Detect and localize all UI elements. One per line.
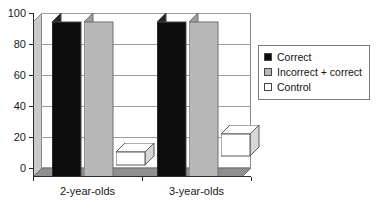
x-tick-mark-middle bbox=[142, 177, 143, 181]
x-tick-mark-start bbox=[33, 177, 34, 181]
bar-chart: 100 80 60 40 20 0 2-year-olds 3-year-old… bbox=[0, 0, 378, 213]
legend-swatch-control-icon bbox=[264, 83, 272, 91]
x-tick-mark-end bbox=[251, 177, 252, 181]
y-axis-line bbox=[33, 13, 34, 177]
y-tick-mark-100 bbox=[29, 13, 33, 14]
y-tick-label-20: 20 bbox=[0, 132, 26, 143]
legend-label-control: Control bbox=[277, 81, 311, 93]
x-tick-label-3-year-olds: 3-year-olds bbox=[142, 185, 251, 197]
legend-label-correct: Correct bbox=[277, 51, 311, 63]
y-tick-mark-20 bbox=[29, 137, 33, 138]
chart-legend: Correct Incorrect + correct Control bbox=[258, 45, 370, 100]
y-tick-mark-60 bbox=[29, 75, 33, 76]
bar-3yo-correct bbox=[157, 13, 186, 177]
y-tick-label-100: 100 bbox=[0, 8, 26, 19]
y-tick-label-0: 0 bbox=[0, 163, 26, 174]
legend-swatch-correct-icon bbox=[264, 53, 272, 61]
legend-item-control: Control bbox=[264, 80, 364, 94]
bar-2yo-correct bbox=[52, 13, 81, 177]
bar-2yo-incorrect-plus-correct bbox=[84, 13, 113, 177]
legend-item-correct: Correct bbox=[264, 50, 364, 64]
y-tick-label-40: 40 bbox=[0, 101, 26, 112]
y-tick-mark-40 bbox=[29, 106, 33, 107]
y-tick-label-80: 80 bbox=[0, 39, 26, 50]
y-tick-label-60: 60 bbox=[0, 70, 26, 81]
legend-label-incorrect-plus-correct: Incorrect + correct bbox=[277, 66, 362, 78]
plot-area bbox=[33, 13, 251, 176]
legend-swatch-incorrect-plus-correct-icon bbox=[264, 68, 272, 76]
x-tick-label-2-year-olds: 2-year-olds bbox=[33, 185, 142, 197]
y-tick-mark-80 bbox=[29, 44, 33, 45]
legend-item-incorrect-plus-correct: Incorrect + correct bbox=[264, 65, 364, 79]
bar-2yo-control bbox=[116, 143, 154, 177]
y-tick-mark-0 bbox=[29, 168, 33, 169]
bar-3yo-incorrect-plus-correct bbox=[189, 13, 218, 177]
bar-3yo-control bbox=[221, 125, 259, 177]
